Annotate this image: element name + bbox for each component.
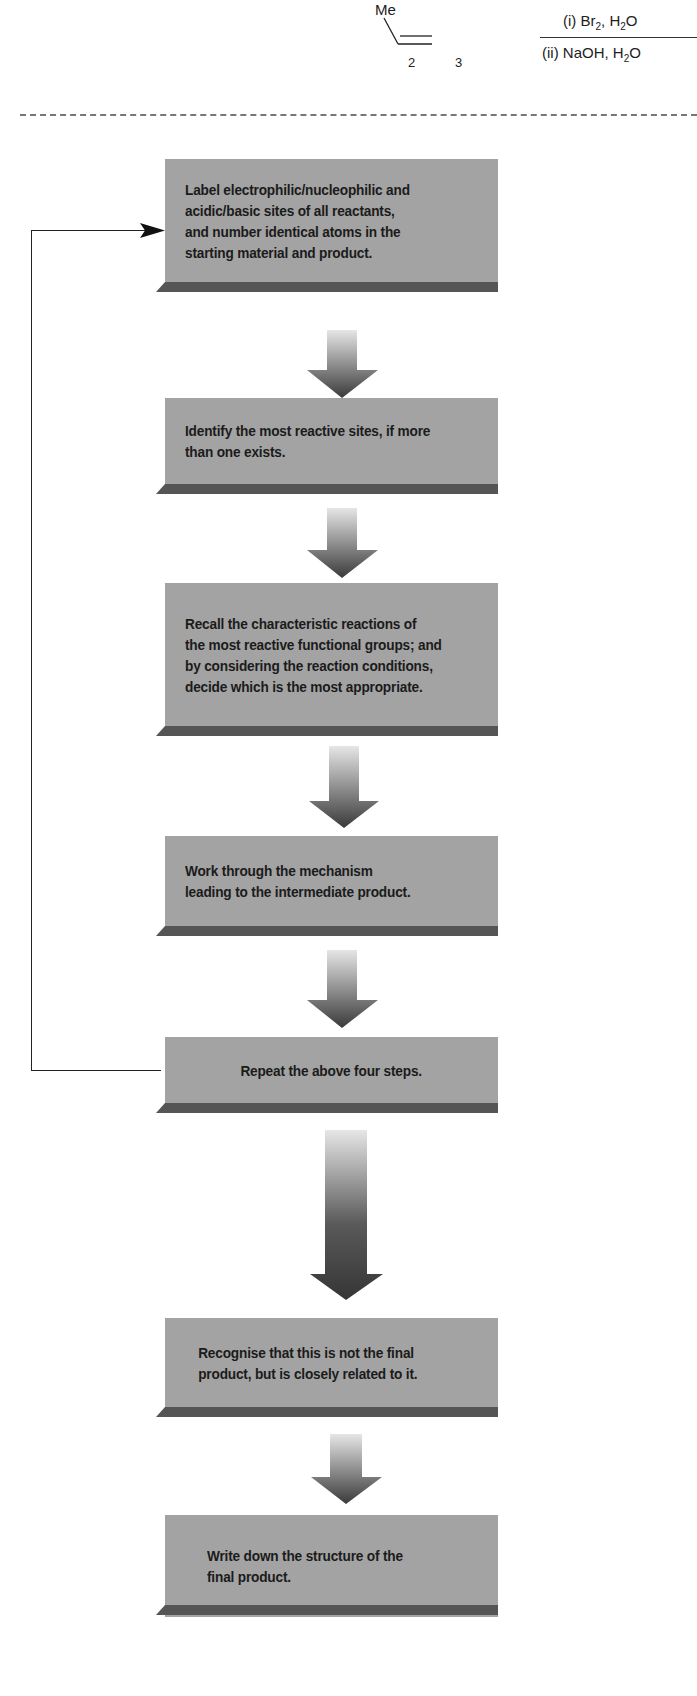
- step-3-box: Recall the characteristic reactions of t…: [165, 583, 498, 726]
- down-arrow-icon: [309, 1130, 385, 1302]
- feedback-arrowhead-icon: [140, 222, 166, 239]
- atom-label-3: 3: [455, 55, 462, 70]
- step-7-box: Write down the structure of the final pr…: [165, 1515, 498, 1617]
- down-arrow-icon: [305, 330, 380, 400]
- step-1-text: Label electrophilic/nucleophilic and aci…: [185, 179, 448, 263]
- step-2-base: [165, 484, 498, 494]
- alkene-structure: [370, 14, 470, 54]
- step-4-box: Work through the mechanism leading to th…: [165, 836, 498, 926]
- down-arrow-icon: [305, 950, 380, 1030]
- reagent-step-2: (ii) NaOH, H2O: [542, 44, 641, 64]
- step-5-text: Repeat the above four steps.: [241, 1060, 423, 1081]
- down-arrow-icon: [307, 746, 382, 830]
- feedback-line-top: [31, 230, 146, 231]
- step-5-base: [165, 1103, 498, 1113]
- step-1-box: Label electrophilic/nucleophilic and aci…: [165, 159, 498, 282]
- step-3-base: [165, 726, 498, 736]
- step-1-base: [165, 282, 498, 292]
- step-6-base: [165, 1407, 498, 1417]
- step-4-text: Work through the mechanism leading to th…: [185, 860, 448, 902]
- step-2-box: Identify the most reactive sites, if mor…: [165, 398, 498, 484]
- step-6-text: Recognise that this is not the final pro…: [185, 1342, 448, 1384]
- section-divider: [20, 114, 697, 116]
- step-5-box: Repeat the above four steps.: [165, 1037, 498, 1103]
- down-arrow-icon: [309, 1434, 384, 1506]
- step-7-text: Write down the structure of the final pr…: [185, 1545, 448, 1587]
- step-7-base: [165, 1605, 498, 1615]
- atom-label-2: 2: [408, 55, 415, 70]
- down-arrow-icon: [305, 508, 380, 580]
- step-3-text: Recall the characteristic reactions of t…: [185, 613, 448, 697]
- reaction-arrow-line: [540, 37, 697, 38]
- step-4-base: [165, 926, 498, 936]
- reagent-step-1: (i) Br2, H2O: [563, 12, 637, 32]
- feedback-line-bottom: [31, 1070, 161, 1071]
- step-2-text: Identify the most reactive sites, if mor…: [185, 420, 448, 462]
- feedback-line-vertical: [31, 230, 32, 1071]
- step-6-box: Recognise that this is not the final pro…: [165, 1318, 498, 1407]
